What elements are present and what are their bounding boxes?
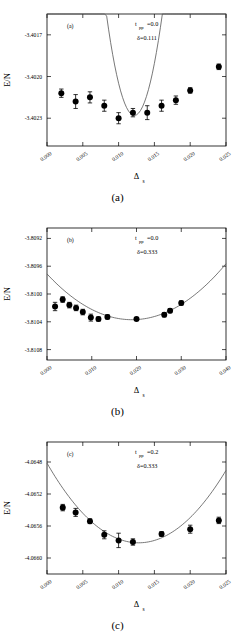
data-point-group [159, 100, 165, 111]
x-tick-label: 0.010 [84, 364, 98, 376]
data-point-group [73, 95, 79, 109]
data-point-group [80, 309, 86, 315]
data-point-marker [52, 304, 58, 310]
panel-caption-a: (a) [0, 191, 235, 203]
y-tick-label: -3.4023 [25, 115, 42, 121]
data-point-group [134, 316, 140, 322]
chart-panel-b: 0.0000.0100.0200.0300.040-3.8092-3.8096-… [0, 214, 235, 428]
data-point-marker [66, 302, 72, 308]
x-tick-label: 0.040 [218, 364, 232, 376]
data-point-group [178, 300, 184, 306]
data-point-marker [116, 115, 122, 121]
data-point-group [88, 314, 94, 321]
panel-tag-inner: (b) [67, 237, 74, 244]
data-point-group [187, 87, 193, 93]
data-point-marker [80, 309, 86, 315]
data-point-marker [130, 110, 136, 116]
annotation-tpp-subscript: pp [139, 239, 144, 244]
data-point-group [101, 531, 107, 539]
data-point-marker [88, 315, 94, 321]
x-axis-label: Δ [134, 171, 140, 181]
data-point-group [60, 504, 66, 510]
annotation-tpp-value: =0.0 [147, 20, 158, 27]
y-tick-label: -3.4020 [25, 74, 42, 80]
data-point-group [87, 518, 93, 524]
data-point-marker [104, 314, 110, 320]
y-axis-label: E/N [2, 501, 12, 515]
data-point-group [116, 113, 122, 124]
plot-svg-c: 0.0000.0050.0100.0150.0200.025-4.0648-4.… [0, 428, 235, 642]
y-tick-label: -3.8096 [25, 263, 42, 269]
data-point-marker [216, 517, 222, 523]
y-tick-label: -3.8108 [25, 347, 42, 353]
x-tick-label: 0.025 [218, 578, 232, 590]
panel-tag-inner: (c) [67, 451, 74, 458]
x-tick-label: 0.010 [111, 578, 125, 590]
annotation-delta: δ=0.333 [137, 462, 157, 469]
y-tick-label: -3.8092 [25, 235, 42, 241]
annotation-tpp-symbol: t [135, 234, 137, 241]
data-point-marker [159, 531, 165, 537]
annotation-tpp-value: =0.0 [147, 234, 158, 241]
data-point-marker [167, 308, 173, 314]
annotation-tpp-subscript: pp [139, 453, 144, 458]
x-tick-label: 0.005 [75, 578, 89, 590]
annotation-tpp: tpp=0.0 [135, 20, 158, 30]
data-point-marker [159, 103, 165, 109]
data-point-marker [73, 509, 79, 515]
data-point-group [58, 89, 64, 97]
annotation-tpp-subscript: pp [139, 25, 144, 30]
x-tick-label: 0.020 [182, 578, 196, 590]
x-tick-label: 0.030 [173, 364, 187, 376]
data-point-marker [187, 87, 193, 93]
data-point-group [52, 302, 58, 310]
x-axis-label: Δ [134, 599, 140, 609]
x-tick-label: 0.015 [146, 150, 160, 162]
figure-root: 0.0000.0050.0100.0150.0200.025-3.4017-3.… [0, 0, 235, 642]
data-point-marker [95, 316, 101, 322]
data-point-group [73, 508, 79, 516]
x-tick-label: 0.000 [39, 578, 53, 590]
x-tick-label: 0.010 [111, 150, 125, 162]
annotation-tpp-value: =0.2 [147, 448, 158, 455]
annotation-tpp-symbol: t [135, 448, 137, 455]
panel-caption-c: (c) [0, 619, 235, 631]
data-point-group [101, 100, 107, 111]
fit-curve [47, 463, 226, 543]
data-point-marker [87, 518, 93, 524]
data-point-marker [87, 94, 93, 100]
data-point-marker [116, 537, 122, 543]
data-point-group [95, 316, 101, 322]
y-tick-label: -4.0660 [25, 555, 42, 561]
data-point-group [116, 533, 122, 547]
data-point-group [130, 539, 136, 545]
data-point-group [167, 308, 173, 314]
x-axis-label-subscript: s [143, 392, 145, 398]
plot-svg-b: 0.0000.0100.0200.0300.040-3.8092-3.8096-… [0, 214, 235, 428]
data-point-marker [161, 312, 167, 318]
data-point-group [73, 305, 79, 311]
y-tick-label: -4.0656 [25, 523, 42, 529]
annotation-tpp: tpp=0.0 [135, 234, 158, 244]
data-point-group [173, 96, 179, 104]
x-tick-label: 0.015 [146, 578, 160, 590]
x-axis-label-subscript: s [143, 178, 145, 184]
y-tick-label: -3.8104 [25, 319, 42, 325]
data-point-marker [101, 103, 107, 109]
x-axis-label-subscript: s [143, 606, 145, 612]
annotation-tpp: tpp=0.2 [135, 448, 158, 458]
data-point-marker [173, 97, 179, 103]
plot-svg-a: 0.0000.0050.0100.0150.0200.025-3.4017-3.… [0, 0, 235, 214]
data-point-marker [216, 64, 222, 70]
data-point-group [161, 312, 167, 318]
data-point-group [159, 531, 165, 537]
data-point-marker [58, 90, 64, 96]
data-point-marker [130, 539, 136, 545]
data-point-marker [101, 532, 107, 538]
panel-tag-inner: (a) [67, 23, 74, 30]
annotation-delta: δ=0.111 [137, 34, 157, 41]
data-point-group [87, 92, 93, 103]
x-tick-label: 0.005 [75, 150, 89, 162]
data-point-marker [73, 305, 79, 311]
fit-curve [47, 264, 226, 320]
